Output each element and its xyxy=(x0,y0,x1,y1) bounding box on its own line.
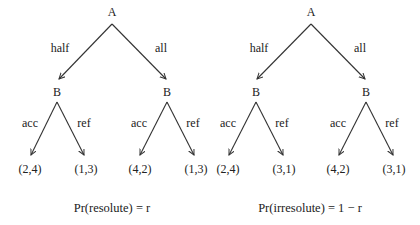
root-node-a: A xyxy=(307,5,316,19)
caption-irresolute: Pr(irresolute) = 1 − r xyxy=(258,201,362,215)
payoff-leaf: (1,3) xyxy=(75,162,98,176)
node-b-after-half: B xyxy=(252,85,260,99)
root-node-a: A xyxy=(108,5,117,19)
payoff-leaf: (2,4) xyxy=(19,162,42,176)
payoff-leaf: (4,2) xyxy=(129,162,152,176)
node-b-after-half: B xyxy=(53,85,61,99)
game-trees-diagram: A half all B acc ref (2,4) (1,3) B acc r… xyxy=(0,0,420,225)
tree-resolute: A half all B acc ref (2,4) (1,3) B acc r… xyxy=(19,5,208,215)
action-label-ref: ref xyxy=(77,116,90,130)
action-label-acc: acc xyxy=(131,116,147,130)
payoff-leaf: (2,4) xyxy=(217,162,240,176)
action-label-half: half xyxy=(51,41,70,55)
action-label-ref: ref xyxy=(275,116,288,130)
action-label-half: half xyxy=(250,41,269,55)
payoff-leaf: (3,1) xyxy=(383,162,406,176)
action-label-acc: acc xyxy=(22,116,38,130)
action-label-all: all xyxy=(354,41,367,55)
action-label-all: all xyxy=(155,41,168,55)
action-label-acc: acc xyxy=(330,116,346,130)
action-label-acc: acc xyxy=(220,116,236,130)
payoff-leaf: (4,2) xyxy=(327,162,350,176)
action-label-ref: ref xyxy=(385,116,398,130)
node-b-after-all: B xyxy=(163,85,171,99)
caption-resolute: Pr(resolute) = r xyxy=(74,201,151,215)
tree-irresolute: A half all B acc ref (2,4) (3,1) B acc r… xyxy=(217,5,406,215)
payoff-leaf: (3,1) xyxy=(273,162,296,176)
payoff-leaf: (1,3) xyxy=(185,162,208,176)
action-label-ref: ref xyxy=(186,116,199,130)
node-b-after-all: B xyxy=(362,85,370,99)
